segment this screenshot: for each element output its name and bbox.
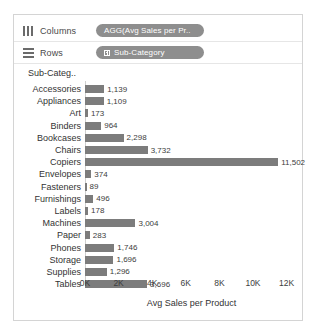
bar-row[interactable]: Art173 [14,107,302,119]
bar-track: 1,746 [85,241,302,253]
bar-value-label: 3,732 [151,146,171,155]
bar-track: 1,696 [85,254,302,266]
bar[interactable] [85,170,91,178]
bar-track: 89 [85,181,302,193]
bar-row[interactable]: Phones1,746 [14,241,302,253]
x-axis-tick-label: 0K [80,278,90,288]
bar-row-label: Bookcases [14,133,85,143]
bar-track: 283 [85,229,302,241]
bar-row-label: Copiers [14,157,85,167]
bar-row[interactable]: Accessories1,139 [14,83,302,95]
x-axis-tick-label: 12K [279,278,294,288]
visualization-card: Columns AGG(Avg Sales per Pr.. Rows Sub-… [13,14,303,321]
bar[interactable] [85,109,88,117]
columns-shelf-label: Columns [40,26,96,36]
bar-row[interactable]: Labels178 [14,205,302,217]
bar-track: 3,732 [85,144,302,156]
bar-row[interactable]: Chairs3,732 [14,144,302,156]
expand-plus-icon[interactable] [104,50,110,56]
columns-pill[interactable]: AGG(Avg Sales per Pr.. [96,24,204,37]
bar[interactable] [85,256,113,264]
bar-value-label: 496 [96,194,109,203]
bar-row[interactable]: Copiers11,502 [14,156,302,168]
columns-shelf[interactable]: Columns AGG(Avg Sales per Pr.. [14,20,302,42]
bar[interactable] [85,134,124,142]
bar-value-label: 1,696 [116,255,136,264]
bar-value-label: 1,139 [107,85,127,94]
bar-value-label: 3,004 [138,219,158,228]
bar[interactable] [85,268,107,276]
bar-row-label: Chairs [14,145,85,155]
bar[interactable] [85,195,93,203]
bar-track: 2,298 [85,132,302,144]
row-axis-header: Sub-Categ.. [28,68,76,78]
bar-row-label: Furnishings [14,194,85,204]
bar-row[interactable]: Furnishings496 [14,193,302,205]
bar-row[interactable]: Storage1,696 [14,254,302,266]
columns-pill-label: AGG(Avg Sales per Pr.. [104,26,191,35]
chart-plot-area: Sub-Categ.. Accessories1,139Appliances1,… [14,64,302,320]
bar[interactable] [85,85,104,93]
bar-row-label: Supplies [14,267,85,277]
bar-value-label: 1,746 [117,243,137,252]
bar-value-label: 1,296 [110,267,130,276]
bar-row[interactable]: Machines3,004 [14,217,302,229]
bar-row-label: Fasteners [14,182,85,192]
bar-track: 178 [85,205,302,217]
bar-row-label: Phones [14,243,85,253]
bar-row[interactable]: Bookcases2,298 [14,132,302,144]
bar-row-label: Paper [14,230,85,240]
rows-icon [23,48,34,58]
bar-track: 173 [85,107,302,119]
bar-track: 3,004 [85,217,302,229]
bar-value-label: 1,109 [107,97,127,106]
columns-icon [23,26,34,36]
bar-value-label: 374 [94,170,107,179]
rows-shelf-label: Rows [40,48,96,58]
bar-track: 1,296 [85,266,302,278]
x-axis-tick-label: 6K [181,278,191,288]
x-axis-tick-label: 10K [245,278,260,288]
bar-row[interactable]: Supplies1,296 [14,266,302,278]
bar-row-label: Tables [14,279,85,289]
bar-track: 1,109 [85,95,302,107]
bar[interactable] [85,97,104,105]
bar-row-label: Storage [14,255,85,265]
bar-row-label: Machines [14,218,85,228]
x-axis-tick-label: 2K [113,278,123,288]
bar-track: 964 [85,120,302,132]
rows-shelf[interactable]: Rows Sub-Category [14,42,302,64]
bar-row[interactable]: Appliances1,109 [14,95,302,107]
bar[interactable] [85,146,148,154]
bar-row-label: Appliances [14,96,85,106]
bar-track: 11,502 [85,156,305,168]
bar[interactable] [85,183,87,191]
bar-value-label: 178 [91,206,104,215]
x-axis-title: Avg Sales per Product [85,298,298,308]
bar[interactable] [85,158,278,166]
bar-track: 496 [85,193,302,205]
bar-track: 1,139 [85,83,302,95]
bar-row-label: Art [14,108,85,118]
bar-value-label: 173 [91,109,104,118]
rows-pill[interactable]: Sub-Category [96,46,204,59]
bar-row-label: Binders [14,121,85,131]
x-axis-tick-label: 8K [214,278,224,288]
bar-value-label: 2,298 [127,133,147,142]
bar-value-label: 89 [90,182,99,191]
x-axis-ticks: 0K2K4K6K8K10K12K [85,278,298,290]
bar[interactable] [85,122,101,130]
bar[interactable] [85,207,88,215]
bar-row[interactable]: Fasteners89 [14,181,302,193]
bar-row[interactable]: Paper283 [14,229,302,241]
bar-value-label: 283 [93,231,106,240]
bar-row[interactable]: Envelopes374 [14,168,302,180]
bar-row-label: Envelopes [14,169,85,179]
bar-track: 374 [85,168,302,180]
bar-row[interactable]: Binders964 [14,120,302,132]
bar-value-label: 964 [104,121,117,130]
bar[interactable] [85,244,114,252]
x-axis-tick-label: 4K [147,278,157,288]
bar[interactable] [85,219,135,227]
bar[interactable] [85,231,90,239]
